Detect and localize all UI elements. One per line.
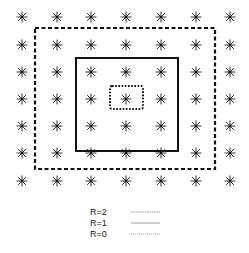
asterisk-marker	[52, 12, 63, 23]
asterisk-marker	[191, 67, 202, 78]
asterisk-marker	[191, 94, 202, 105]
asterisk-marker	[17, 176, 28, 187]
asterisk-marker	[86, 12, 97, 23]
asterisk-marker	[225, 94, 236, 105]
asterisk-marker	[121, 94, 132, 105]
asterisk-marker	[121, 176, 132, 187]
legend: R=2 R=1 R=0	[90, 207, 160, 239]
asterisk-marker	[52, 67, 63, 78]
asterisk-marker	[17, 121, 28, 132]
neighborhood-diagram: R=2 R=1 R=0	[0, 0, 249, 253]
asterisk-marker	[86, 121, 97, 132]
asterisk-grid	[17, 12, 236, 187]
asterisk-marker	[121, 148, 132, 159]
asterisk-marker	[191, 12, 202, 23]
asterisk-marker	[156, 176, 167, 187]
asterisk-marker	[17, 12, 28, 23]
asterisk-marker	[225, 40, 236, 51]
asterisk-marker	[121, 121, 132, 132]
asterisk-marker	[191, 176, 202, 187]
asterisk-marker	[17, 40, 28, 51]
asterisk-marker	[225, 176, 236, 187]
legend-label-r1: R=1	[90, 218, 107, 228]
asterisk-marker	[86, 94, 97, 105]
asterisk-marker	[191, 121, 202, 132]
asterisk-marker	[225, 121, 236, 132]
asterisk-marker	[225, 12, 236, 23]
asterisk-marker	[156, 40, 167, 51]
asterisk-marker	[156, 148, 167, 159]
asterisk-marker	[52, 40, 63, 51]
asterisk-marker	[191, 148, 202, 159]
asterisk-marker	[225, 67, 236, 78]
asterisk-marker	[156, 121, 167, 132]
legend-label-r0: R=0	[90, 229, 107, 239]
legend-label-r2: R=2	[90, 207, 107, 217]
asterisk-marker	[52, 176, 63, 187]
asterisk-marker	[86, 176, 97, 187]
asterisk-marker	[225, 148, 236, 159]
asterisk-marker	[52, 148, 63, 159]
asterisk-marker	[156, 94, 167, 105]
asterisk-marker	[121, 12, 132, 23]
asterisk-marker	[17, 94, 28, 105]
asterisk-marker	[86, 40, 97, 51]
asterisk-marker	[86, 148, 97, 159]
asterisk-marker	[86, 67, 97, 78]
asterisk-marker	[156, 12, 167, 23]
asterisk-marker	[121, 40, 132, 51]
asterisk-marker	[121, 67, 132, 78]
asterisk-marker	[191, 40, 202, 51]
asterisk-marker	[52, 94, 63, 105]
asterisk-marker	[156, 67, 167, 78]
asterisk-marker	[52, 121, 63, 132]
asterisk-marker	[17, 67, 28, 78]
asterisk-marker	[17, 148, 28, 159]
